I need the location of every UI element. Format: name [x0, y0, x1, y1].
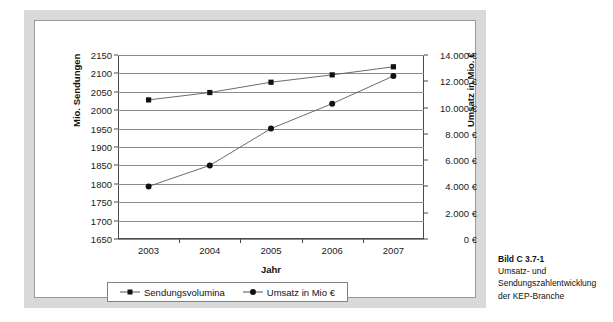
y-axis-right-tick-label: 10.000 € — [431, 102, 477, 113]
x-axis-title: Jahr — [118, 264, 424, 275]
gridline — [118, 239, 424, 240]
x-axis-tick-mark — [302, 239, 303, 243]
legend-square-marker-icon — [120, 288, 140, 296]
figure-caption-body: Umsatz- und Sendungszahlentwicklung der … — [498, 265, 606, 302]
data-point-square — [207, 90, 212, 95]
y-axis-left-title: Mio. Sendungen — [71, 54, 82, 127]
x-axis-tick-mark — [179, 239, 180, 243]
y-axis-left-tick-label: 1850 — [91, 160, 112, 171]
y-axis-right-title: Umsatz in Mio. € — [465, 53, 476, 127]
y-axis-right-tick-mark — [424, 160, 428, 161]
y-axis-right-tick-label: 6.000 € — [431, 155, 477, 166]
y-axis-left-tick-label: 1800 — [91, 178, 112, 189]
data-point-circle — [146, 183, 152, 189]
y-axis-right-tick-label: 0 € — [431, 234, 477, 245]
legend-circle-marker-icon — [243, 288, 263, 296]
y-axis-right-tick-mark — [424, 212, 428, 213]
data-point-circle — [329, 101, 335, 107]
data-point-square — [330, 72, 335, 77]
legend-label: Sendungsvolumina — [144, 287, 225, 298]
y-axis-right-tick-mark — [424, 55, 428, 56]
data-point-square — [268, 80, 273, 85]
x-axis-tick-mark — [240, 239, 241, 243]
x-axis-tick-label: 2005 — [260, 245, 281, 256]
y-axis-left-tick-label: 1700 — [91, 215, 112, 226]
y-axis-right-tick-label: 12.000 € — [431, 76, 477, 87]
data-point-circle — [390, 73, 396, 79]
data-point-square — [146, 97, 151, 102]
y-axis-right-tick-label: 4.000 € — [431, 181, 477, 192]
series-layer — [118, 55, 424, 239]
y-axis-right-tick-mark — [424, 186, 428, 187]
y-axis-left-tick-label: 1900 — [91, 142, 112, 153]
figure-caption: Bild C 3.7-1 Umsatz- und Sendungszahlent… — [498, 253, 606, 302]
y-axis-left-tick-label: 1950 — [91, 123, 112, 134]
y-axis-left-tick-label: 2100 — [91, 68, 112, 79]
data-point-square — [391, 64, 396, 69]
chart-legend: SendungsvoluminaUmsatz in Mio € — [107, 282, 348, 302]
y-axis-left-tick-label: 1750 — [91, 197, 112, 208]
data-point-circle — [207, 162, 213, 168]
y-axis-left-tick-label: 2000 — [91, 105, 112, 116]
chart-area: Mio. Sendungen Umsatz in Mio. € Jahr 215… — [35, 21, 477, 299]
y-axis-left-tick-label: 2050 — [91, 86, 112, 97]
y-axis-right-tick-mark — [424, 81, 428, 82]
legend-key-marker — [128, 290, 133, 295]
legend-label: Umsatz in Mio € — [267, 287, 335, 298]
y-axis-right-tick-label: 8.000 € — [431, 128, 477, 139]
x-axis-tick-mark — [363, 239, 364, 243]
legend-entry: Sendungsvolumina — [120, 287, 225, 298]
plot-area: 2150210020502000195019001850180017501700… — [118, 55, 424, 239]
legend-entry: Umsatz in Mio € — [243, 287, 335, 298]
y-axis-right-tick-mark — [424, 239, 428, 240]
figure-inner-panel: Mio. Sendungen Umsatz in Mio. € Jahr 215… — [34, 20, 476, 298]
data-point-circle — [268, 126, 274, 132]
y-axis-left-tick-label: 1650 — [91, 234, 112, 245]
x-axis-tick-label: 2003 — [138, 245, 159, 256]
figure-frame: Mio. Sendungen Umsatz in Mio. € Jahr 215… — [24, 10, 486, 308]
y-axis-right-tick-label: 14.000 € — [431, 50, 477, 61]
figure-caption-title: Bild C 3.7-1 — [498, 253, 606, 265]
y-axis-right-tick-label: 2.000 € — [431, 207, 477, 218]
legend-key-marker — [250, 289, 256, 295]
y-axis-right-tick-mark — [424, 107, 428, 108]
x-axis-tick-label: 2006 — [322, 245, 343, 256]
y-axis-left-tick-label: 2150 — [91, 50, 112, 61]
y-axis-right-tick-mark — [424, 133, 428, 134]
x-axis-tick-label: 2007 — [383, 245, 404, 256]
x-axis-tick-label: 2004 — [199, 245, 220, 256]
